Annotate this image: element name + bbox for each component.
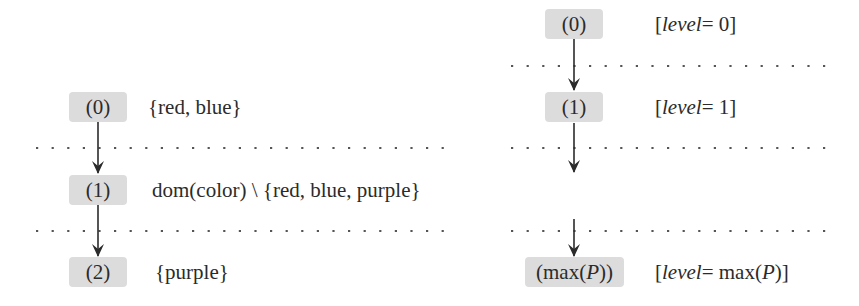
left-node-2: (2) bbox=[69, 257, 127, 287]
right-node-max-annotation: [level = max(P)] bbox=[655, 257, 789, 287]
diagram-canvas: (0) {red, blue} (1) dom(color) \ {red, b… bbox=[0, 0, 859, 306]
node-label: (1) bbox=[86, 178, 111, 203]
right-node-0-annotation: [level = 0] bbox=[655, 9, 736, 39]
right-node-1-annotation: [level = 1] bbox=[655, 92, 736, 122]
left-node-0: (0) bbox=[69, 92, 127, 122]
node-label: (2) bbox=[86, 260, 111, 285]
node-label: (0) bbox=[86, 95, 111, 120]
left-node-2-annotation: {purple} bbox=[155, 257, 229, 287]
node-label: (1) bbox=[562, 95, 587, 120]
right-node-1: (1) bbox=[545, 92, 603, 122]
right-node-0: (0) bbox=[545, 9, 603, 39]
left-node-1: (1) bbox=[69, 175, 127, 205]
node-label: (0) bbox=[562, 12, 587, 37]
left-node-0-annotation: {red, blue} bbox=[148, 92, 242, 122]
left-node-1-annotation: dom(color) \ {red, blue, purple} bbox=[152, 175, 421, 205]
right-node-max: (max(P)) bbox=[525, 257, 624, 287]
